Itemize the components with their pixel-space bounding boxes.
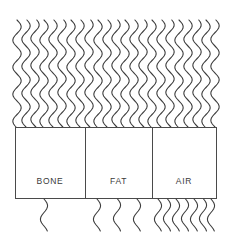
transmitted-ray-fat [133, 199, 140, 231]
attenuation-diagram: BONEFATAIR [0, 0, 235, 233]
transmitted-ray-bone [40, 199, 47, 231]
material-boxes-group: BONEFATAIR [16, 128, 217, 199]
incident-ray [67, 20, 75, 127]
incident-ray [58, 20, 66, 127]
incident-ray [166, 20, 174, 127]
transmitted-ray-air [163, 199, 170, 231]
incident-ray [211, 20, 219, 127]
incident-ray [94, 20, 102, 127]
incident-ray [202, 20, 210, 127]
incident-ray [49, 20, 57, 127]
material-label-bone: BONE [37, 176, 64, 186]
incident-ray [121, 20, 129, 127]
transmitted-ray-fat [113, 199, 120, 231]
incident-ray [148, 20, 156, 127]
incident-ray [139, 20, 147, 127]
incident-ray [184, 20, 192, 127]
incident-ray [76, 20, 84, 127]
incident-ray [193, 20, 201, 127]
incident-ray [22, 20, 30, 127]
incident-ray [157, 20, 165, 127]
incident-ray [31, 20, 39, 127]
transmitted-ray-fat [93, 199, 100, 231]
transmitted-ray-air [207, 199, 214, 231]
transmitted-ray-air [199, 199, 206, 231]
transmitted-ray-air [172, 199, 179, 231]
transmitted-ray-air [181, 199, 188, 231]
material-box-air[interactable] [153, 128, 217, 199]
incident-ray [112, 20, 120, 127]
material-box-bone[interactable] [16, 128, 86, 199]
material-box-fat[interactable] [86, 128, 153, 199]
diagram-canvas: BONEFATAIR [0, 0, 235, 233]
transmitted-ray-air [154, 199, 161, 231]
incident-ray [13, 20, 21, 127]
incident-ray [40, 20, 48, 127]
incident-ray [130, 20, 138, 127]
incident-wavy-rays [13, 20, 219, 127]
incident-ray [175, 20, 183, 127]
incident-ray [103, 20, 111, 127]
material-label-fat: FAT [110, 176, 127, 186]
transmitted-ray-air [190, 199, 197, 231]
incident-ray [85, 20, 93, 127]
transmitted-wavy-rays [40, 199, 214, 231]
material-label-air: AIR [176, 176, 192, 186]
